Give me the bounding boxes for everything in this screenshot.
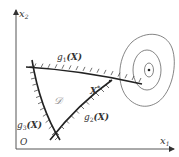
x-axis-label: x1 (160, 136, 169, 147)
constraint-g2 (50, 80, 112, 140)
y-axis-label: x2 (19, 9, 28, 20)
g2-label: g2(X) (84, 113, 109, 123)
g3-label: g3(X) (17, 121, 42, 131)
constraint-g1 (26, 63, 142, 84)
optimum-point (109, 80, 111, 82)
region-label: 𝒟 (54, 96, 62, 106)
g1-label: g1(X) (57, 53, 82, 63)
contour-outer (120, 34, 175, 106)
optimum-label: X* (90, 85, 100, 96)
contour-center-point (148, 69, 151, 72)
origin-label: O (20, 138, 27, 147)
optimization-diagram (0, 0, 179, 157)
objective-contours (120, 34, 175, 106)
contour-middle (133, 50, 161, 90)
